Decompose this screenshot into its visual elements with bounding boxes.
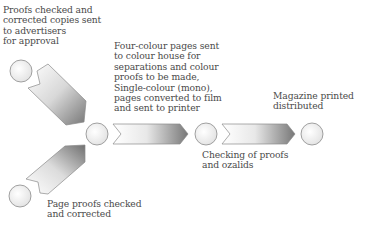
label-page-proofs: Page proofs checked and corrected xyxy=(47,199,142,220)
node-advertisers-circle-icon xyxy=(10,60,32,82)
node-colour-house-circle-icon xyxy=(86,123,108,145)
label-colour-house: Four-colour pages sent to colour house f… xyxy=(114,41,222,114)
arrow-page-proofs-to-colour-house-icon xyxy=(26,145,85,194)
label-ozalids: Checking of proofs and ozalids xyxy=(202,150,288,171)
arrow-advertisers-to-colour-house-icon xyxy=(28,64,86,125)
label-printed: Magazine printed distributed xyxy=(273,91,354,112)
node-ozalids-circle-icon xyxy=(195,123,217,145)
node-page-proofs-circle-icon xyxy=(9,185,31,207)
arrow-colour-house-to-ozalids-icon xyxy=(113,124,188,144)
node-printed-circle-icon xyxy=(301,123,323,145)
label-advertisers: Proofs checked and corrected copies sent… xyxy=(3,5,101,47)
arrow-ozalids-to-printed-icon xyxy=(222,124,295,144)
